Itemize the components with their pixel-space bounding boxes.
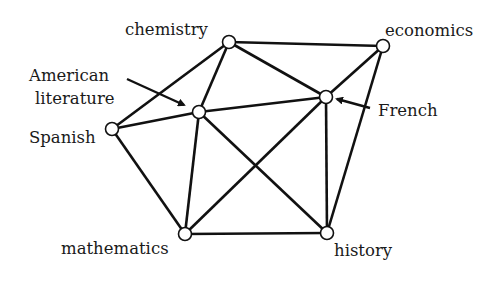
label-literature: literature (35, 89, 115, 108)
edge-chemistry-economics (229, 42, 383, 46)
node-economics (377, 40, 390, 53)
label-mathematics: mathematics (61, 239, 169, 258)
node-mathematics (179, 228, 192, 241)
label-chemistry: chemistry (125, 20, 209, 39)
edge-amlit-mathematics (185, 112, 199, 234)
edge-amlit-french (199, 97, 326, 112)
edge-spanish-mathematics (112, 129, 185, 234)
node-french (320, 91, 333, 104)
edge-french-history (326, 97, 327, 233)
node-amlit (193, 106, 206, 119)
edges (112, 42, 383, 234)
edge-chemistry-french (229, 42, 326, 97)
label-economics: economics (385, 21, 473, 40)
node-history (321, 227, 334, 240)
node-spanish (106, 123, 119, 136)
label-american: American (28, 66, 110, 85)
label-spanish: Spanish (29, 128, 96, 147)
nodes (106, 36, 390, 241)
label-french: French (378, 101, 438, 120)
label-history: history (334, 241, 393, 260)
edge-amlit-history (199, 112, 327, 233)
edge-economics-history (327, 46, 383, 233)
node-chemistry (223, 36, 236, 49)
edge-mathematics-history (185, 233, 327, 234)
graph-diagram: chemistry economics American literature … (0, 0, 497, 287)
